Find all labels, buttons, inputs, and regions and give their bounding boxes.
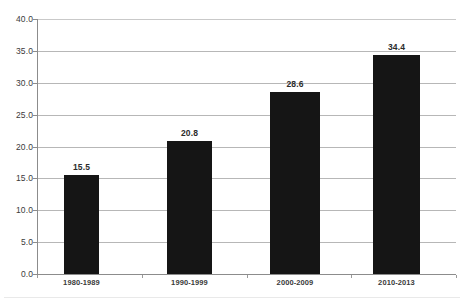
bar-value-label: 15.5 [52, 163, 111, 172]
bar [270, 92, 320, 274]
y-axis-tick-label: 0.0 [1, 270, 33, 279]
y-axis-tick-label: 20.0 [1, 143, 33, 152]
x-axis-tick-mark [142, 275, 143, 278]
x-axis-tick-mark [351, 275, 352, 278]
x-axis-tick-label: 1980-1989 [39, 279, 124, 287]
x-axis-tick-mark [37, 275, 38, 278]
bar [373, 55, 420, 274]
y-axis-tick-mark [33, 51, 37, 52]
plot-area [37, 19, 456, 274]
y-axis-tick-label: 35.0 [1, 47, 33, 56]
y-axis-tick-mark [33, 115, 37, 116]
y-axis-tick-mark [33, 147, 37, 148]
y-axis-tick-label: 15.0 [1, 174, 33, 183]
y-axis-tick-mark [33, 83, 37, 84]
y-axis-tick-mark [33, 210, 37, 211]
x-axis-tick-label: 2000-2009 [245, 279, 345, 287]
x-axis-tick-mark [247, 275, 248, 278]
footer-rule [4, 297, 460, 298]
y-axis-tick-label: 40.0 [1, 15, 33, 24]
x-axis-tick-label: 2010-2013 [348, 279, 445, 287]
y-axis-tick-label: 30.0 [1, 79, 33, 88]
bar-value-label: 20.8 [155, 129, 224, 138]
y-axis-tick-label: 10.0 [1, 206, 33, 215]
x-axis-tick-label: 1990-1999 [142, 279, 237, 287]
y-axis-tick-mark [33, 178, 37, 179]
bar [64, 175, 99, 274]
gridline [37, 19, 456, 20]
y-axis-tick-label: 25.0 [1, 111, 33, 120]
y-axis-line [37, 19, 38, 275]
bar-chart-figure: 40.035.030.025.020.015.010.05.00.0 15.52… [0, 0, 464, 305]
y-axis-tick-label: 5.0 [1, 238, 33, 247]
y-axis-tick-mark [33, 19, 37, 20]
y-axis-labels-group: 40.035.030.025.020.015.010.05.00.0 [0, 0, 33, 305]
bar [167, 141, 212, 274]
x-axis-tick-mark [456, 275, 457, 278]
y-axis-tick-mark [33, 242, 37, 243]
bar-value-label: 34.4 [361, 43, 432, 52]
bar-value-label: 28.6 [258, 80, 332, 89]
